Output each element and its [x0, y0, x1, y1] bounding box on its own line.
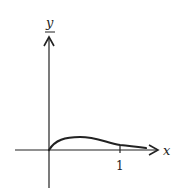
- y-axis-label: y: [45, 15, 54, 30]
- x-tick-label-1: 1: [116, 159, 124, 173]
- function-curve: [49, 137, 146, 150]
- x-axis-label: x: [163, 143, 171, 158]
- graph-canvas: y x 1: [0, 0, 180, 196]
